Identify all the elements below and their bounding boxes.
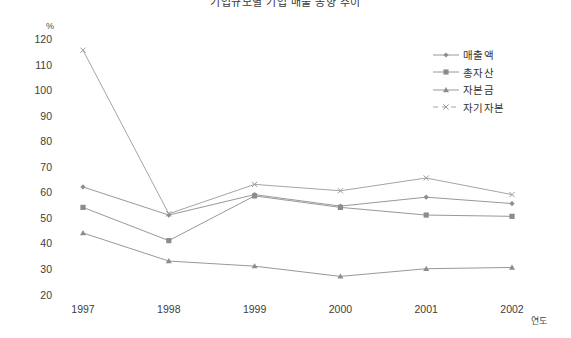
- x-tick-label: 2002: [487, 303, 537, 315]
- legend-marker-square-icon: [432, 65, 460, 79]
- legend-marker-diamond-icon: [432, 48, 460, 62]
- y-tick-label: 20: [20, 289, 52, 301]
- data-point-marker: [509, 201, 514, 206]
- legend-marker: [443, 52, 448, 57]
- data-point-marker: [338, 205, 343, 210]
- data-point-marker: [80, 184, 85, 189]
- x-tick-label: 1997: [58, 303, 108, 315]
- legend-item[interactable]: 총자산: [432, 64, 550, 82]
- series-line: [83, 196, 512, 241]
- series-group: [80, 184, 514, 217]
- data-point-marker: [509, 214, 514, 219]
- x-axis-title: 연도: [531, 314, 547, 327]
- legend-label: 자기자본: [463, 100, 504, 115]
- data-point-marker: [166, 238, 171, 243]
- y-tick-label: 100: [20, 84, 52, 96]
- data-point-marker: [424, 212, 429, 217]
- y-tick-label: 70: [20, 161, 52, 173]
- x-tick-label: 1998: [144, 303, 194, 315]
- series-line: [83, 187, 512, 215]
- data-point-marker: [252, 193, 257, 198]
- legend-label: 자본금: [463, 82, 494, 97]
- series-line: [83, 233, 512, 276]
- y-tick-label: 80: [20, 135, 52, 147]
- data-point-marker: [80, 230, 86, 235]
- y-tick-label: 90: [20, 110, 52, 122]
- chart-legend: 매출액총자산자본금자기자본: [432, 46, 550, 116]
- y-tick-label: 50: [20, 212, 52, 224]
- legend-item[interactable]: 매출액: [432, 46, 550, 64]
- legend-marker: [443, 70, 448, 75]
- legend-label: 총자산: [463, 65, 494, 80]
- x-tick-label: 2000: [315, 303, 365, 315]
- y-tick-label: 120: [20, 33, 52, 45]
- y-tick-label: 110: [20, 59, 52, 71]
- legend-item[interactable]: 자본금: [432, 81, 550, 99]
- legend-marker-x-icon: [432, 100, 460, 114]
- y-tick-label: 30: [20, 263, 52, 275]
- chart-container: 기업규모별 기업 매출 동향 추이 % 연도 12011010090807060…: [0, 0, 571, 338]
- data-point-marker: [80, 205, 85, 210]
- legend-label: 매출액: [463, 47, 494, 62]
- series-group: [80, 230, 515, 279]
- y-tick-label: 60: [20, 186, 52, 198]
- legend-item[interactable]: 자기자본: [432, 99, 550, 117]
- x-tick-label: 1999: [230, 303, 280, 315]
- y-tick-label: 40: [20, 237, 52, 249]
- legend-marker-triangle-icon: [432, 83, 460, 97]
- data-point-marker: [80, 48, 85, 53]
- x-tick-label: 2001: [401, 303, 451, 315]
- y-axis-unit-label: %: [46, 21, 54, 31]
- data-point-marker: [424, 195, 429, 200]
